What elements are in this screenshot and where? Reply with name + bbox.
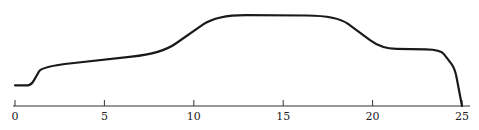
x-tick-label: 10: [187, 110, 201, 123]
x-tick-label: 25: [455, 110, 469, 123]
x-tick-label: 15: [276, 110, 290, 123]
line-chart: 0510152025: [0, 0, 479, 130]
x-axis: 0510152025: [12, 100, 471, 123]
x-tick-label: 0: [12, 110, 19, 123]
x-tick-label: 5: [101, 110, 108, 123]
x-tick-label: 20: [366, 110, 380, 123]
data-line: [15, 15, 462, 106]
